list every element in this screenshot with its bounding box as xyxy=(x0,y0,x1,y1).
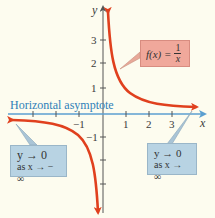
x-axis-label: x xyxy=(199,116,206,130)
x-tick-neg1: −1 xyxy=(73,118,85,130)
y-tick-neg1: −1 xyxy=(86,131,98,143)
y-tick-2: 2 xyxy=(91,57,97,69)
x-tick-1: 1 xyxy=(123,118,129,130)
fraction-denominator: x xyxy=(176,54,180,64)
callout-pointer-left xyxy=(16,124,37,145)
function-fraction: 1 x xyxy=(174,43,181,64)
left-limit-line1: y → 0 xyxy=(17,149,60,161)
right-limit-line1: y → 0 xyxy=(154,147,190,159)
y-axis-label: y xyxy=(91,3,98,17)
function-label-callout: f(x) = 1 x xyxy=(140,40,190,67)
chart: y 3 2 1 −1 x −1 1 2 3 Horizontal asympto… xyxy=(0,0,215,218)
left-limit-line2: as x → − ∞ xyxy=(17,161,60,185)
right-limit-callout: y → 0 as x → ∞ xyxy=(147,143,197,175)
x-tick-2: 2 xyxy=(146,118,152,130)
left-limit-callout: y → 0 as x → − ∞ xyxy=(10,145,67,177)
function-label-prefix: f(x) = xyxy=(146,48,171,60)
x-tick-3: 3 xyxy=(169,118,175,130)
y-tick-1: 1 xyxy=(91,82,97,94)
right-limit-line2: as x → ∞ xyxy=(154,159,190,183)
callout-pointer-func xyxy=(120,52,140,69)
asymptote-label: Horizontal asymptote xyxy=(10,98,114,112)
y-tick-3: 3 xyxy=(91,34,97,46)
